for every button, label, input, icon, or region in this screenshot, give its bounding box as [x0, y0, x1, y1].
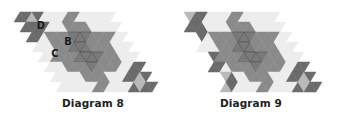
diagram-8-caption: Diagram 8	[62, 97, 124, 109]
piece-label-d: D	[37, 20, 45, 31]
diagram-8: DBC Diagram 8	[0, 0, 170, 117]
piece-label-c: C	[51, 48, 58, 59]
diagram-9: Diagram 9	[170, 0, 337, 117]
piece-label-b: B	[64, 36, 72, 47]
diagram-9-caption: Diagram 9	[220, 97, 282, 109]
